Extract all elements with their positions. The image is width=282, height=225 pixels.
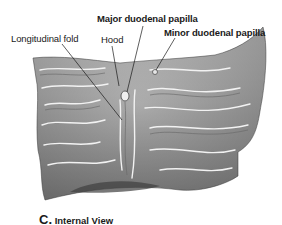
- major-papilla: [121, 91, 129, 101]
- label-minor-duodenal-papilla: Minor duodenal papilla: [164, 27, 265, 38]
- caption-text: Internal View: [55, 215, 113, 225]
- label-hood: Hood: [101, 34, 123, 45]
- minor-papilla: [153, 70, 158, 75]
- label-major-duodenal-papilla: Major duodenal papilla: [97, 13, 198, 24]
- figure-caption: C. Internal View: [39, 212, 113, 225]
- label-longitudinal-fold: Longitudinal fold: [11, 33, 79, 44]
- caption-letter: C.: [39, 212, 52, 225]
